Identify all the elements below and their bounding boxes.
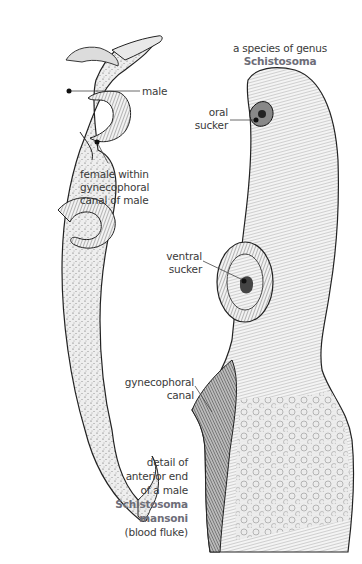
label-male: male bbox=[142, 85, 167, 98]
label-ventral-line2: sucker bbox=[150, 263, 202, 276]
label-female: female within gynecophoral canal of male bbox=[80, 168, 149, 207]
caption-species: mansoni bbox=[80, 511, 188, 525]
title-genus: Schistosoma bbox=[205, 55, 355, 68]
caption-line2: anterior end bbox=[80, 469, 188, 483]
label-ventral-line1: ventral bbox=[150, 250, 202, 263]
label-male-text: male bbox=[142, 85, 167, 97]
label-female-line2: gynecophoral bbox=[80, 181, 149, 194]
label-gyne-line1: gynecophoral bbox=[108, 376, 194, 389]
caption: detail of anterior end of a male Schisto… bbox=[80, 455, 188, 539]
caption-genus: Schistosoma bbox=[80, 497, 188, 511]
label-ventral-sucker: ventral sucker bbox=[150, 250, 202, 276]
anterior-end-detail bbox=[192, 68, 354, 552]
label-female-line1: female within bbox=[80, 168, 149, 181]
label-gynecophoral-canal: gynecophoral canal bbox=[108, 376, 194, 402]
caption-common-name: (blood fluke) bbox=[80, 525, 188, 539]
label-oral-line2: sucker bbox=[180, 119, 228, 132]
caption-line3: of a male bbox=[80, 483, 188, 497]
label-oral-sucker: oral sucker bbox=[180, 106, 228, 132]
caption-line1: detail of bbox=[80, 455, 188, 469]
right-panel-title: a species of genus Schistosoma bbox=[205, 42, 355, 68]
label-gyne-line2: canal bbox=[108, 389, 194, 402]
label-female-line3: canal of male bbox=[80, 194, 149, 207]
title-line1: a species of genus bbox=[205, 42, 355, 55]
label-oral-line1: oral bbox=[180, 106, 228, 119]
